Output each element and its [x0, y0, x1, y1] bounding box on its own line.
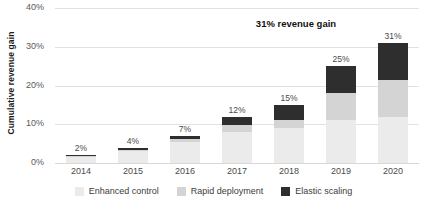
- x-axis-label-2015: 2015: [107, 166, 159, 176]
- bar-segment-rapid-deployment: [378, 80, 408, 117]
- y-axis-label: 20%: [0, 80, 44, 90]
- y-axis-label: 30%: [0, 41, 44, 51]
- x-axis-label-2016: 2016: [159, 166, 211, 176]
- bar-2018[interactable]: [274, 105, 304, 163]
- bar-2016[interactable]: [170, 136, 200, 163]
- gridline: [55, 163, 419, 164]
- bar-segment-elastic-scaling: [326, 66, 356, 93]
- x-axis-label-2018: 2018: [263, 166, 315, 176]
- bar-total-label: 2%: [75, 143, 87, 153]
- stacked-bar-chart: Cumulative revenue gain 0%10%20%30%40% 2…: [0, 0, 427, 205]
- y-axis-label: 0%: [0, 157, 44, 167]
- legend-label: Rapid deployment: [191, 186, 264, 196]
- legend-swatch-icon: [281, 187, 290, 196]
- bar-segment-elastic-scaling: [222, 117, 252, 126]
- y-axis-label: 40%: [0, 2, 44, 12]
- legend-swatch-icon: [75, 187, 84, 196]
- bar-segment-elastic-scaling: [274, 105, 304, 121]
- bar-2015[interactable]: [118, 148, 148, 163]
- bar-segment-elastic-scaling: [378, 43, 408, 80]
- bar-total-label: 31%: [384, 31, 401, 41]
- bar-segment-enhanced-control: [66, 157, 96, 163]
- chart-annotation: 31% revenue gain: [256, 18, 336, 29]
- bar-2017[interactable]: [222, 117, 252, 163]
- bar-total-label: 12%: [228, 105, 245, 115]
- legend-item-elastic-scaling[interactable]: Elastic scaling: [281, 186, 352, 196]
- x-axis-label-2019: 2019: [315, 166, 367, 176]
- chart-legend: Enhanced controlRapid deploymentElastic …: [0, 186, 427, 196]
- x-axis-label-2017: 2017: [211, 166, 263, 176]
- bar-total-label: 4%: [127, 136, 139, 146]
- bar-segment-enhanced-control: [118, 151, 148, 163]
- legend-label: Elastic scaling: [295, 186, 352, 196]
- y-axis-label: 10%: [0, 118, 44, 128]
- bar-segment-enhanced-control: [326, 120, 356, 163]
- bar-segment-enhanced-control: [378, 117, 408, 164]
- legend-item-rapid-deployment[interactable]: Rapid deployment: [177, 186, 264, 196]
- bar-2014[interactable]: [66, 155, 96, 163]
- plot-area: 2%4%7%12%15%25%31%: [55, 8, 419, 163]
- x-axis-tick-labels: 2014201520162017201820192020: [55, 166, 419, 182]
- x-axis-label-2014: 2014: [55, 166, 107, 176]
- bar-2020[interactable]: [378, 43, 408, 163]
- bar-total-label: 25%: [332, 54, 349, 64]
- legend-swatch-icon: [177, 187, 186, 196]
- gridline: [55, 86, 419, 87]
- bar-total-label: 7%: [179, 124, 191, 134]
- bar-2019[interactable]: [326, 66, 356, 163]
- bar-segment-rapid-deployment: [222, 125, 252, 132]
- x-axis-label-2020: 2020: [367, 166, 419, 176]
- bar-segment-enhanced-control: [170, 142, 200, 163]
- gridline: [55, 8, 419, 9]
- bar-segment-rapid-deployment: [274, 120, 304, 128]
- gridline: [55, 47, 419, 48]
- bar-segment-enhanced-control: [274, 128, 304, 163]
- y-axis-tick-labels: 0%10%20%30%40%: [0, 8, 48, 163]
- bar-segment-rapid-deployment: [326, 93, 356, 120]
- legend-item-enhanced-control[interactable]: Enhanced control: [75, 186, 159, 196]
- legend-label: Enhanced control: [89, 186, 159, 196]
- bar-segment-enhanced-control: [222, 132, 252, 163]
- bar-total-label: 15%: [280, 93, 297, 103]
